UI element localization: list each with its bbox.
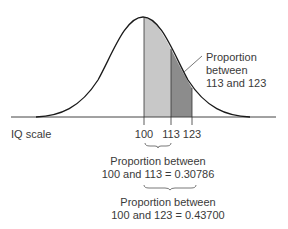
tick-label-123: 123: [182, 128, 202, 141]
callout-line-3: 113 and 123: [206, 77, 266, 90]
callout-label: Proportion between 113 and 123: [206, 51, 266, 90]
bracket1-line-2: 100 and 113 = 0.30786: [98, 168, 218, 181]
region-113-123: [171, 49, 192, 117]
bracket-100-113: [145, 143, 171, 148]
bracket2-label: Proportion between 100 and 123 = 0.43700: [108, 196, 228, 222]
callout-line-2: between: [206, 64, 266, 77]
axis-label: IQ scale: [11, 128, 51, 141]
region-100-113: [144, 17, 171, 117]
bracket-100-123: [144, 185, 196, 190]
callout-leader: [184, 56, 202, 72]
bracket2-line-2: 100 and 123 = 0.43700: [108, 209, 228, 222]
normal-curve-diagram: [0, 0, 288, 229]
tick-label-100: 100: [134, 128, 154, 141]
tick-label-113: 113: [161, 128, 181, 141]
callout-line-1: Proportion: [206, 51, 266, 64]
bracket2-line-1: Proportion between: [108, 196, 228, 209]
bracket1-label: Proportion between 100 and 113 = 0.30786: [98, 155, 218, 181]
bracket1-line-1: Proportion between: [98, 155, 218, 168]
